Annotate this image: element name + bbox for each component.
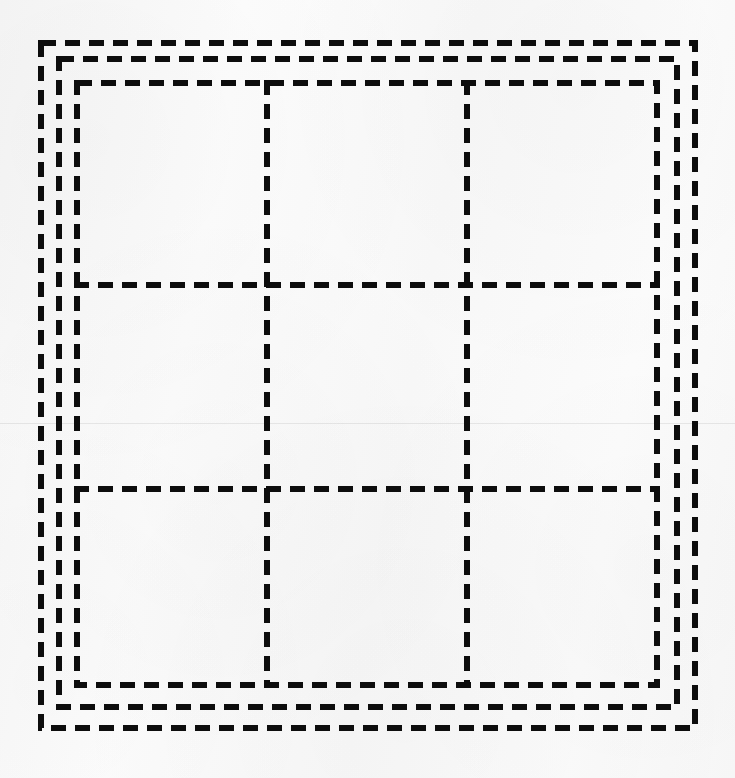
middle-dashed-square (59, 59, 677, 707)
outer-dashed-square (41, 43, 695, 728)
inner-dashed-square (77, 83, 657, 685)
figure-canvas (0, 0, 735, 778)
diagram-svg (0, 0, 735, 778)
